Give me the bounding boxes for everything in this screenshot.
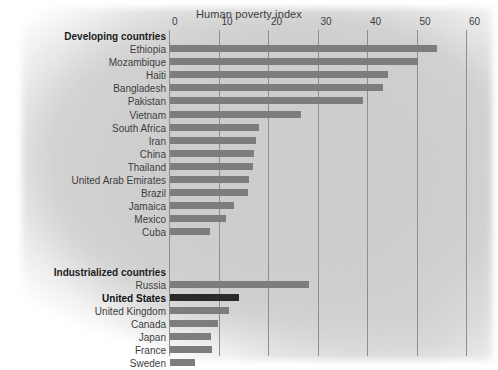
chart-row: Jamaica xyxy=(0,200,498,213)
row-spacer xyxy=(0,240,498,253)
category-label: Sweden xyxy=(0,357,166,370)
group-label: Industrialized countries xyxy=(0,266,166,279)
category-label: Canada xyxy=(0,318,166,331)
category-label: Pakistan xyxy=(0,95,166,108)
category-label: United Arab Emirates xyxy=(0,174,166,187)
chart-row: Pakistan xyxy=(0,95,498,108)
chart-row: Iran xyxy=(0,135,498,148)
chart-row: United Arab Emirates xyxy=(0,174,498,187)
chart-row: United Kingdom xyxy=(0,305,498,318)
chart-row: Mozambique xyxy=(0,56,498,69)
bar xyxy=(170,281,309,288)
chart-row: Haiti xyxy=(0,69,498,82)
bar xyxy=(170,45,437,52)
bar xyxy=(170,163,253,170)
category-label: Ethiopia xyxy=(0,43,166,56)
group-heading-row: Industrialized countries xyxy=(0,266,498,279)
bar xyxy=(170,294,239,301)
category-label: Jamaica xyxy=(0,200,166,213)
chart-row: France xyxy=(0,344,498,357)
bar xyxy=(170,97,363,104)
category-label: Japan xyxy=(0,331,166,344)
chart-row: Sweden xyxy=(0,357,498,370)
chart-row: Bangladesh xyxy=(0,82,498,95)
bar xyxy=(170,228,210,235)
chart-rows: Developing countriesEthiopiaMozambiqueHa… xyxy=(0,0,498,370)
category-label: Haiti xyxy=(0,69,166,82)
chart-row: South Africa xyxy=(0,122,498,135)
chart-row: Japan xyxy=(0,331,498,344)
category-label: China xyxy=(0,148,166,161)
bar xyxy=(170,359,195,366)
category-label: Cuba xyxy=(0,226,166,239)
category-label: Mexico xyxy=(0,213,166,226)
chart-row: Cuba xyxy=(0,226,498,239)
bar xyxy=(170,215,226,222)
bar xyxy=(170,320,218,327)
bar xyxy=(170,84,383,91)
category-label: Russia xyxy=(0,279,166,292)
bar xyxy=(170,202,234,209)
chart-row: Vietnam xyxy=(0,109,498,122)
top-offset xyxy=(0,0,498,30)
bar xyxy=(170,111,301,118)
category-label: Brazil xyxy=(0,187,166,200)
category-label: United States xyxy=(0,292,166,305)
bar xyxy=(170,124,259,131)
bar xyxy=(170,333,211,340)
chart-row: Canada xyxy=(0,318,498,331)
bar xyxy=(170,346,212,353)
bar xyxy=(170,58,418,65)
category-label: Iran xyxy=(0,135,166,148)
bar xyxy=(170,307,229,314)
category-label: Vietnam xyxy=(0,109,166,122)
chart-row: China xyxy=(0,148,498,161)
category-label: South Africa xyxy=(0,122,166,135)
chart-row: Mexico xyxy=(0,213,498,226)
chart-row: Thailand xyxy=(0,161,498,174)
chart-row: Ethiopia xyxy=(0,43,498,56)
chart-row: Brazil xyxy=(0,187,498,200)
chart-row: United States xyxy=(0,292,498,305)
bar xyxy=(170,137,256,144)
group-heading-row: Developing countries xyxy=(0,30,498,43)
bar xyxy=(170,189,248,196)
chart-row: Russia xyxy=(0,279,498,292)
category-label: Bangladesh xyxy=(0,82,166,95)
bar xyxy=(170,150,254,157)
human-poverty-index-chart: Human poverty index 0102030405060 Develo… xyxy=(0,0,498,370)
category-label: Thailand xyxy=(0,161,166,174)
bar xyxy=(170,71,388,78)
category-label: France xyxy=(0,344,166,357)
bar xyxy=(170,176,249,183)
group-label: Developing countries xyxy=(0,30,166,43)
category-label: United Kingdom xyxy=(0,305,166,318)
row-spacer xyxy=(0,253,498,266)
category-label: Mozambique xyxy=(0,56,166,69)
